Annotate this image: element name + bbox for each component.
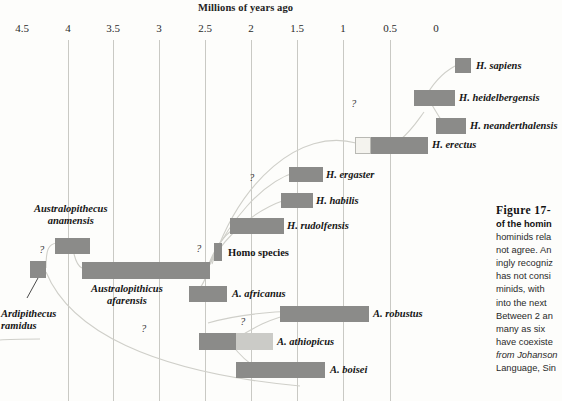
uncertainty-marker-ardipithecus: ? <box>39 244 44 255</box>
bar-label-h-rudolfensis: H. rudolfensis <box>287 220 349 232</box>
caption-line-11: from Johanson <box>496 349 562 362</box>
axis-tick-3: 3 <box>156 22 162 34</box>
bar-label-a-boisei: A. boisei <box>330 364 367 376</box>
figure-caption: Figure 17- of the homin hominids rela no… <box>496 204 562 401</box>
caption-line-6: minids, with <box>496 283 562 296</box>
bar-a-athiopicus-dark-segment <box>199 333 236 350</box>
bar-label-h-heidelbergensis: H. heidelbergensis <box>459 92 540 104</box>
caption-line-9: many as six <box>496 323 562 336</box>
caption-line-5: has not consi <box>496 270 562 283</box>
bar-label-h-sapiens: H. sapiens <box>476 60 522 72</box>
bar-h-erectus-open-segment <box>355 137 371 154</box>
caption-line-7: into the next <box>496 297 562 310</box>
caption-line-10: have coexiste <box>496 336 562 349</box>
bar-label-h-habilis: H. habilis <box>316 195 359 207</box>
caption-line-12: Language, Sin <box>496 362 562 375</box>
bar-label-a-afarensis-line2: afarensis <box>91 295 163 307</box>
bar-h-rudolfensis[interactable] <box>230 218 284 234</box>
bar-a-anamensis[interactable] <box>55 238 90 254</box>
bar-a-afarensis[interactable] <box>82 262 210 279</box>
axis-tick-4: 4 <box>65 22 71 34</box>
caption-line-2: hominids rela <box>496 231 562 244</box>
caption-line-4: ingly recogniz <box>496 257 562 270</box>
bar-h-sapiens[interactable] <box>455 58 471 73</box>
bar-h-erectus-dark-segment <box>371 137 428 154</box>
axis-tick-2.5: 2.5 <box>198 22 212 34</box>
axis-tick-1: 1 <box>340 22 346 34</box>
gridline-0.5 <box>390 40 391 401</box>
bar-h-heidelbergensis[interactable] <box>414 90 455 106</box>
bar-homo-species[interactable] <box>214 243 222 261</box>
bar-label-h-ergaster: H. ergaster <box>326 169 374 181</box>
caption-line-8: Between 2 an <box>496 310 562 323</box>
axis-tick-1.5: 1.5 <box>290 22 304 34</box>
uncertainty-marker-robustus: ? <box>240 316 245 327</box>
gridline-3 <box>159 40 160 401</box>
bar-label-ardipithecus-line2: ramidus <box>1 320 56 332</box>
bar-label-homo-species: Homo species <box>228 247 289 259</box>
bar-a-athiopicus[interactable] <box>199 333 273 350</box>
bar-label-a-anamensis-line2: anamensis <box>34 215 108 227</box>
bar-label-ardipithecus-line1: Ardipithecus <box>1 308 56 320</box>
axis-tick-0: 0 <box>433 22 439 34</box>
bar-h-ergaster[interactable] <box>289 167 323 182</box>
axis-tick-0.5: 0.5 <box>383 22 397 34</box>
bar-label-ardipithecus-ramidus: Ardipithecus ramidus <box>1 308 56 332</box>
bar-label-a-africanus: A. africanus <box>232 288 286 300</box>
gridline-3.5 <box>113 40 114 401</box>
uncertainty-marker-afarensis-homo: ? <box>196 243 201 254</box>
bar-a-boisei[interactable] <box>236 362 325 378</box>
caption-line-1: of the homin <box>496 218 562 231</box>
axis-tick-2: 2 <box>248 22 254 34</box>
bar-h-neanderthalensis[interactable] <box>436 118 466 134</box>
ardipithecus-leader-line <box>20 272 60 312</box>
bar-h-habilis[interactable] <box>281 193 313 208</box>
bar-label-h-erectus: H. erectus <box>432 139 476 151</box>
uncertainty-marker-erectus: ? <box>351 98 356 109</box>
bar-label-h-neanderthalensis: H. neanderthalensis <box>470 120 558 132</box>
bar-a-robustus[interactable] <box>280 306 369 322</box>
bar-label-a-athiopicus: A. athiopicus <box>277 336 334 348</box>
bar-a-africanus[interactable] <box>189 286 227 302</box>
bar-h-erectus[interactable] <box>355 137 428 154</box>
figure-number: Figure 17- <box>496 204 562 218</box>
bar-label-a-anamensis-line1: Australopithecus <box>34 203 108 215</box>
bar-a-athiopicus-light-segment <box>236 333 273 350</box>
bar-label-a-robustus: A. robustus <box>373 308 423 320</box>
bar-label-a-afarensis: Australopithicus afarensis <box>91 283 163 307</box>
bar-label-a-afarensis-line1: Australopithicus <box>91 283 163 295</box>
bar-label-a-anamensis: Australopithecus anamensis <box>34 203 108 227</box>
uncertainty-marker-ergaster: ? <box>249 172 254 183</box>
axis-tick-4.5: 4.5 <box>15 22 29 34</box>
evolution-timeline-chart: Millions of years ago 4.5 4 3.5 3 2.5 2 … <box>0 0 490 401</box>
axis-tick-3.5: 3.5 <box>106 22 120 34</box>
caption-line-3: not agree. An <box>496 244 562 257</box>
uncertainty-marker-boisei-branch: ? <box>141 323 146 334</box>
axis-title: Millions of years ago <box>198 2 293 13</box>
